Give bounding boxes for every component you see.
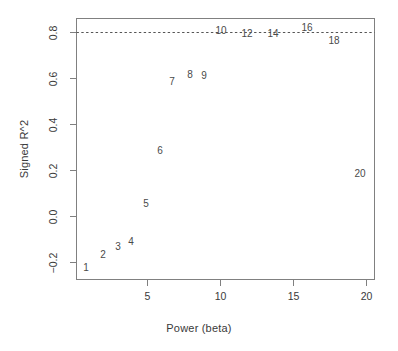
data-point-label: 16 xyxy=(297,22,317,33)
y-axis-ticks xyxy=(70,33,77,263)
y-axis-title: Signed R^2 xyxy=(18,89,30,209)
x-tick-label-10: 10 xyxy=(200,290,241,302)
data-point-label: 5 xyxy=(136,198,156,209)
data-point-label: 10 xyxy=(211,25,231,36)
y-tick-label-0-4: 0.4 xyxy=(47,105,59,145)
data-point-label: 20 xyxy=(350,168,370,179)
y-tick-label-0-6: 0.6 xyxy=(47,59,59,99)
y-tick-label-0-2: 0.2 xyxy=(47,151,59,191)
x-axis-title: Power (beta) xyxy=(0,322,398,334)
chart-canvas xyxy=(0,0,398,351)
x-tick-label-20: 20 xyxy=(346,290,387,302)
data-point-label: 7 xyxy=(162,76,182,87)
y-tick-label-0-0: 0.0 xyxy=(47,197,59,237)
data-point-label: 12 xyxy=(237,28,257,39)
data-point-label: 9 xyxy=(194,70,214,81)
chart-figure: 0.8 0.6 0.4 0.2 0.0 −0.2 5 10 15 20 Powe… xyxy=(0,0,398,351)
data-point-label: 14 xyxy=(263,28,283,39)
data-point-label: 18 xyxy=(324,35,344,46)
data-point-label: 6 xyxy=(150,145,170,156)
x-tick-label-5: 5 xyxy=(127,290,168,302)
x-axis-ticks xyxy=(148,280,367,287)
x-tick-label-15: 15 xyxy=(273,290,314,302)
data-point-label: 1 xyxy=(76,262,96,273)
y-tick-label-0-8: 0.8 xyxy=(47,13,59,53)
data-point-label: 4 xyxy=(121,236,141,247)
y-tick-label-neg-0-2: −0.2 xyxy=(47,243,59,283)
